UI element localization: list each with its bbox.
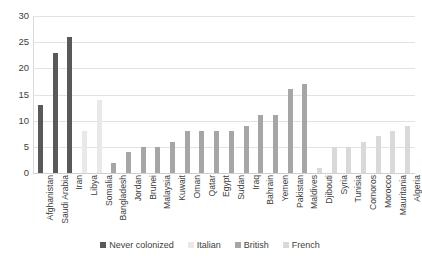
y-tick-label-0: 0 (3, 168, 29, 178)
bar-comoros (361, 142, 366, 173)
bar-maldives (302, 84, 307, 173)
bar-saudi-arabia (53, 53, 58, 173)
x-label-bangladesh: Bangladesh (117, 175, 126, 220)
legend-swatch-icon (100, 242, 106, 248)
x-label-maldives: Maldives (308, 175, 317, 209)
bar-iran (67, 37, 72, 173)
x-label-pakistan: Pakistan (294, 175, 303, 208)
x-label-iraq: Iraq (250, 175, 259, 190)
legend-swatch-icon (235, 242, 241, 248)
bar-bangladesh (111, 163, 116, 173)
bar-malaysia (155, 147, 160, 173)
bar-tunisia (346, 147, 351, 173)
bar-libya (82, 131, 87, 173)
bar-series-group (33, 16, 415, 173)
legend-entry-italian[interactable]: Italian (188, 241, 221, 250)
x-axis-category-labels: AfghanistanSaudi ArabiaIranLibyaSomaliaB… (33, 175, 415, 233)
legend-label: Italian (197, 241, 221, 250)
x-label-malaysia: Malaysia (161, 175, 170, 209)
y-tick-label-10: 10 (3, 116, 29, 126)
x-label-jordan: Jordan (132, 175, 141, 201)
x-label-mauritania: Mauritania (397, 175, 406, 215)
y-tick-label-30: 30 (3, 11, 29, 21)
bar-morocco (376, 136, 381, 173)
x-label-bahrain: Bahrain (264, 175, 273, 205)
bar-afghanistan (38, 105, 43, 173)
x-label-qatar: Qatar (206, 175, 215, 197)
x-label-afghanistan: Afghanistan (44, 175, 53, 220)
bar-oman (185, 131, 190, 173)
legend-label: French (292, 241, 320, 250)
bar-yemen (273, 115, 278, 173)
y-tick-label-20: 20 (3, 63, 29, 73)
legend-label: Never colonized (109, 241, 174, 250)
chart-legend: Never colonizedItalianBritishFrench (0, 238, 420, 252)
legend-entry-french[interactable]: French (283, 241, 320, 250)
x-label-djibouti: Djibouti (323, 175, 332, 204)
bar-somalia (97, 100, 102, 173)
y-tick-label-15: 15 (3, 90, 29, 100)
plot-area (33, 16, 415, 173)
x-label-oman: Oman (191, 175, 200, 198)
legend-entry-never-colonized[interactable]: Never colonized (100, 241, 174, 250)
bar-bahrain (258, 115, 263, 173)
y-tick-label-5: 5 (3, 142, 29, 152)
bar-qatar (199, 131, 204, 173)
y-tick-label-25: 25 (3, 37, 29, 47)
x-label-kuwait: Kuwait (176, 175, 185, 201)
x-label-yemen: Yemen (279, 175, 288, 201)
bar-syria (332, 147, 337, 173)
y-axis-tick-labels: 051015202530 (0, 0, 29, 260)
x-label-sudan: Sudan (235, 175, 244, 200)
legend-swatch-icon (188, 242, 194, 248)
bar-iraq (244, 126, 249, 173)
bar-pakistan (288, 89, 293, 173)
x-label-brunei: Brunei (147, 175, 156, 200)
bar-sudan (229, 131, 234, 173)
bar-jordan (126, 152, 131, 173)
bar-mauritania (390, 131, 395, 173)
x-label-morocco: Morocco (382, 175, 391, 208)
x-label-egypt: Egypt (220, 175, 229, 197)
bar-egypt (214, 131, 219, 173)
bar-algeria (405, 126, 410, 173)
legend-entry-british[interactable]: British (235, 241, 269, 250)
bar-djibouti (317, 168, 322, 173)
legend-label: British (244, 241, 269, 250)
bar-brunei (141, 147, 146, 173)
legend-swatch-icon (283, 242, 289, 248)
x-label-syria: Syria (338, 175, 347, 195)
x-label-algeria: Algeria (411, 175, 420, 202)
x-label-somalia: Somalia (103, 175, 112, 206)
x-label-iran: Iran (73, 175, 82, 190)
x-label-saudi-arabia: Saudi Arabia (59, 175, 68, 224)
bar-kuwait (170, 142, 175, 173)
x-label-comoros: Comoros (367, 175, 376, 210)
x-label-libya: Libya (88, 175, 97, 196)
x-label-tunisia: Tunisia (352, 175, 361, 202)
